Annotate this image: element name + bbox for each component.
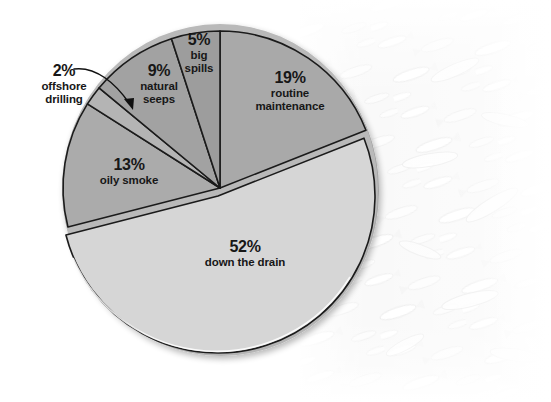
slice-name-routine-maintenance-line2: maintenance: [228, 100, 352, 113]
slice-name-big-spills-line1: big: [175, 49, 223, 62]
slice-name-offshore-drilling-line1: offshore: [18, 80, 110, 93]
slice-percent-big-spills: 5%: [175, 31, 223, 49]
infographic-canvas: 2% offshore drilling 9% natural seeps 5%…: [0, 0, 551, 402]
slice-name-natural-seeps-line2: seeps: [124, 93, 194, 106]
slice-name-offshore-drilling-line2: drilling: [18, 93, 110, 106]
slice-percent-down-the-drain: 52%: [177, 238, 313, 256]
slice-percent-oily-smoke: 13%: [74, 156, 184, 174]
slice-name-down-the-drain-line1: down the drain: [177, 256, 313, 269]
slice-label-oily-smoke: 13% oily smoke: [74, 156, 184, 187]
slice-label-routine-maintenance: 19% routine maintenance: [228, 69, 352, 113]
slice-name-routine-maintenance-line1: routine: [228, 87, 352, 100]
slice-name-oily-smoke-line1: oily smoke: [74, 174, 184, 187]
slice-percent-offshore-drilling: 2%: [18, 62, 110, 80]
slice-name-natural-seeps-line1: natural: [124, 80, 194, 93]
slice-label-big-spills: 5% big spills: [175, 31, 223, 75]
slice-name-big-spills-line2: spills: [175, 62, 223, 75]
slice-percent-routine-maintenance: 19%: [228, 69, 352, 87]
slice-label-offshore-drilling: 2% offshore drilling: [18, 62, 110, 106]
pie-chart: [0, 0, 551, 402]
slice-label-down-the-drain: 52% down the drain: [177, 238, 313, 269]
